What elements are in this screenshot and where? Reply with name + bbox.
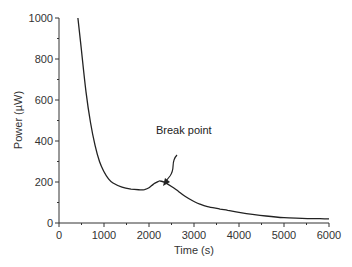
- y-tick-label: 200: [35, 176, 53, 188]
- x-tick-label: 4000: [227, 229, 251, 241]
- y-axis-ticks: 02004006008001000: [29, 12, 59, 229]
- y-tick-label: 400: [35, 135, 53, 147]
- y-tick-label: 0: [47, 217, 53, 229]
- break-point-label: Break point: [156, 124, 212, 136]
- x-tick-label: 6000: [317, 229, 341, 241]
- break-point-arrow: [166, 155, 177, 181]
- y-tick-label: 600: [35, 94, 53, 106]
- x-axis-label: Time (s): [174, 244, 214, 256]
- power-curve: [78, 18, 329, 219]
- power-time-chart: 02004006008001000 0100020003000400050006…: [0, 0, 352, 267]
- x-tick-label: 5000: [272, 229, 296, 241]
- axes: [59, 18, 329, 223]
- y-axis-label: Power (µW): [12, 91, 24, 149]
- y-tick-label: 1000: [29, 12, 53, 24]
- x-axis-ticks: 0100020003000400050006000: [56, 223, 341, 241]
- x-tick-label: 2000: [137, 229, 161, 241]
- y-tick-label: 800: [35, 53, 53, 65]
- x-tick-label: 1000: [92, 229, 116, 241]
- x-tick-label: 3000: [182, 229, 206, 241]
- x-tick-label: 0: [56, 229, 62, 241]
